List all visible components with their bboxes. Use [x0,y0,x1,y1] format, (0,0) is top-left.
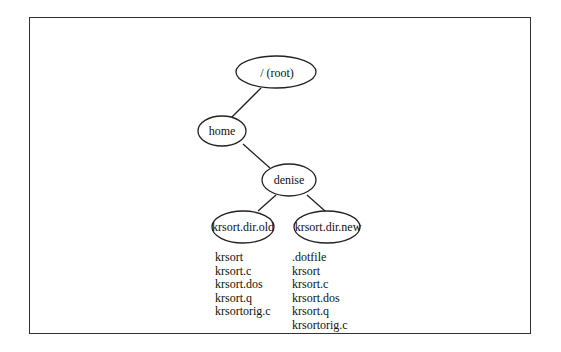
root-label: / (root) [260,66,294,81]
file-item: krsort.c [292,278,348,292]
edge-root-home [232,88,261,117]
file-item: krsortorig.c [215,305,271,319]
file-item: .dotfile [292,251,348,265]
file-item: krsort.dos [292,292,348,306]
krsort-dir-old-label: krsort.dir.old [212,220,274,235]
file-item: krsort [215,251,271,265]
file-item: krsort.c [215,265,271,279]
file-item: krsort [292,265,348,279]
file-list-new: .dotfile krsort krsort.c krsort.dos krso… [292,251,348,332]
denise-label: denise [274,173,305,188]
krsort-dir-new-label: krsort.dir.new [295,220,362,235]
edge-denise-old [258,195,276,211]
file-item: krsort.q [215,292,271,306]
file-item: krsort.dos [215,278,271,292]
file-list-old: krsort krsort.c krsort.dos krsort.q krso… [215,251,271,319]
file-item: krsortorig.c [292,319,348,333]
home-label: home [209,124,236,139]
edge-denise-new [307,195,325,211]
file-item: krsort.q [292,305,348,319]
edge-home-denise [243,144,270,168]
